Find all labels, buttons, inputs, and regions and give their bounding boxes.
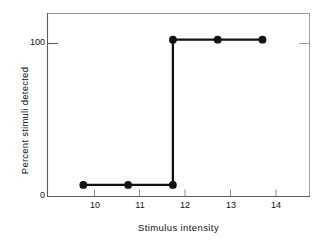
series-line — [83, 40, 262, 185]
data-point — [214, 36, 222, 44]
data-point — [169, 36, 177, 44]
x-tick-label-11: 11 — [130, 200, 150, 210]
y-axis-title: Percent stimuli detected — [19, 46, 30, 196]
data-point — [79, 181, 87, 189]
data-point — [124, 181, 132, 189]
data-point — [259, 36, 267, 44]
x-tick-marks — [95, 190, 277, 197]
data-point — [169, 181, 177, 189]
x-axis-title: Stimulus intensity — [47, 222, 310, 233]
chart-figure: 100 0 10 11 12 13 14 Percent stimuli det… — [0, 0, 325, 241]
x-tick-label-14: 14 — [266, 200, 286, 210]
x-tick-label-10: 10 — [85, 200, 105, 210]
x-tick-label-12: 12 — [175, 200, 195, 210]
x-tick-label-13: 13 — [221, 200, 241, 210]
